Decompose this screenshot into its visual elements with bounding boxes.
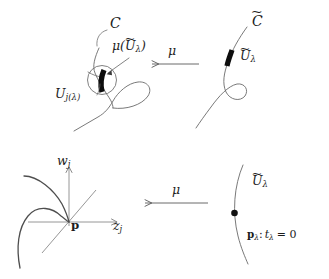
image-segment-thick bbox=[101, 70, 104, 92]
image-segment-group bbox=[101, 70, 104, 92]
label-point-equation: pλ:tλ= 0 bbox=[247, 229, 297, 242]
curve-label-leader bbox=[97, 30, 107, 46]
label-origin-point: p bbox=[71, 219, 79, 232]
label-image-of-segment: μ(Uλ) bbox=[112, 40, 146, 54]
branch-curve-upper bbox=[24, 176, 69, 222]
label-neighborhood-U: Uj(λ) bbox=[55, 88, 80, 102]
label-axis-w: wj bbox=[57, 155, 70, 169]
label-axis-z: zj bbox=[113, 220, 122, 234]
label-mu-top: μ bbox=[168, 45, 176, 58]
nodal-curve-loop-branch bbox=[74, 82, 150, 131]
disc-panel-group bbox=[231, 165, 248, 264]
label-curve-C-tilde: C bbox=[252, 14, 263, 28]
label-curve-C: C bbox=[110, 16, 121, 30]
label-mu-bottom: μ bbox=[172, 184, 180, 197]
figure-root: C μ(Uλ) Uj(λ) μ C Uλ wj zj p μ Uλ pλ:tλ=… bbox=[0, 0, 329, 279]
label-disc-U-tilde: Uλ bbox=[252, 175, 268, 189]
local-coordinates-group bbox=[18, 167, 117, 268]
smooth-curve-segment-thick bbox=[227, 50, 232, 66]
label-segment-U-tilde: Uλ bbox=[240, 50, 256, 64]
branch-curve-lower bbox=[18, 208, 69, 268]
image-label-leader-arrowhead bbox=[107, 70, 112, 75]
marked-point-dot bbox=[231, 210, 238, 217]
